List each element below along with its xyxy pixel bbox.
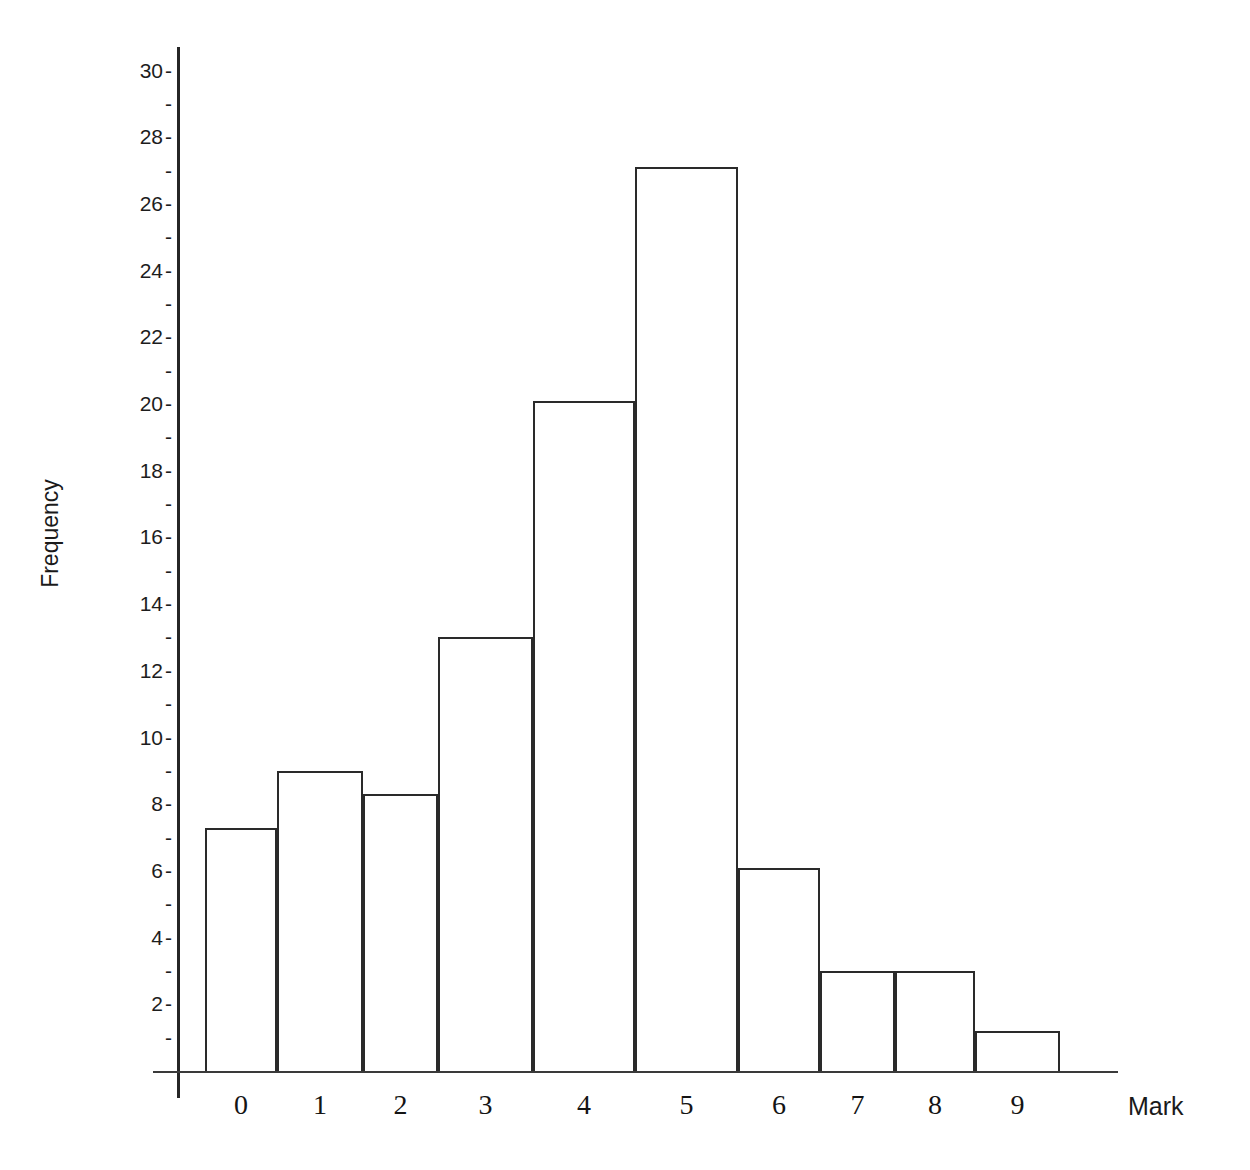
y-tick-mark: - xyxy=(165,60,172,81)
y-tick-label-21: - xyxy=(0,360,172,381)
y-tick-label-28: 28- xyxy=(0,126,172,147)
y-tick-label-22: 22- xyxy=(0,326,172,347)
y-tick-mark: - xyxy=(165,693,172,714)
y-tick-label-20: 20- xyxy=(0,393,172,414)
bar-0 xyxy=(205,828,277,1071)
y-tick-label-2: 2- xyxy=(0,993,172,1014)
bar-4 xyxy=(533,401,635,1071)
x-tick-label-6: 6 xyxy=(749,1089,809,1121)
y-tick-label-23: - xyxy=(0,293,172,314)
y-tick-value: 20 xyxy=(140,392,163,415)
y-tick-mark: - xyxy=(165,326,172,347)
y-tick-mark: - xyxy=(165,626,172,647)
y-tick-mark: - xyxy=(165,460,172,481)
y-tick-label-15: - xyxy=(0,560,172,581)
y-tick-value: 28 xyxy=(140,125,163,148)
x-tick-label-5: 5 xyxy=(657,1089,717,1121)
y-tick-label-1: - xyxy=(0,1027,172,1048)
y-tick-mark: - xyxy=(165,760,172,781)
y-tick-value: 16 xyxy=(140,525,163,548)
bar-2 xyxy=(363,794,438,1071)
y-tick-label-12: 12- xyxy=(0,660,172,681)
x-axis-line xyxy=(153,1071,1118,1073)
x-tick-label-4: 4 xyxy=(554,1089,614,1121)
x-tick-label-8: 8 xyxy=(905,1089,965,1121)
y-tick-label-6: 6- xyxy=(0,860,172,881)
y-tick-label-25: - xyxy=(0,226,172,247)
y-tick-mark: - xyxy=(165,526,172,547)
y-tick-mark: - xyxy=(165,893,172,914)
bar-1 xyxy=(277,771,363,1071)
y-tick-label-11: - xyxy=(0,693,172,714)
y-axis-line xyxy=(177,47,180,1098)
y-tick-mark: - xyxy=(165,993,172,1014)
y-tick-label-18: 18- xyxy=(0,460,172,481)
y-tick-mark: - xyxy=(165,560,172,581)
y-tick-value: 22 xyxy=(140,325,163,348)
y-tick-value: 8 xyxy=(151,792,163,815)
histogram-chart: Frequency 30--28--26--24--22--20--18--16… xyxy=(0,0,1250,1170)
y-tick-mark: - xyxy=(165,1027,172,1048)
y-tick-mark: - xyxy=(165,93,172,114)
y-tick-value: 6 xyxy=(151,859,163,882)
y-tick-mark: - xyxy=(165,593,172,614)
y-tick-mark: - xyxy=(165,193,172,214)
y-tick-mark: - xyxy=(165,260,172,281)
y-tick-value: 18 xyxy=(140,459,163,482)
y-tick-label-16: 16- xyxy=(0,526,172,547)
y-tick-value: 26 xyxy=(140,192,163,215)
y-tick-mark: - xyxy=(165,793,172,814)
y-tick-mark: - xyxy=(165,827,172,848)
y-tick-mark: - xyxy=(165,360,172,381)
bar-3 xyxy=(438,637,533,1071)
x-axis-title: Mark xyxy=(1128,1092,1184,1121)
y-tick-label-7: - xyxy=(0,827,172,848)
y-tick-label-8: 8- xyxy=(0,793,172,814)
bar-6 xyxy=(738,868,820,1071)
y-tick-value: 30 xyxy=(140,59,163,82)
y-tick-label-24: 24- xyxy=(0,260,172,281)
x-tick-label-9: 9 xyxy=(988,1089,1048,1121)
y-tick-label-3: - xyxy=(0,960,172,981)
y-tick-label-30: 30- xyxy=(0,60,172,81)
y-tick-label-14: 14- xyxy=(0,593,172,614)
y-tick-value: 10 xyxy=(140,726,163,749)
bar-8 xyxy=(895,971,975,1071)
y-tick-label-13: - xyxy=(0,626,172,647)
y-tick-label-5: - xyxy=(0,893,172,914)
y-tick-label-19: - xyxy=(0,426,172,447)
y-tick-mark: - xyxy=(165,293,172,314)
bar-7 xyxy=(820,971,895,1071)
y-tick-mark: - xyxy=(165,493,172,514)
y-tick-label-9: - xyxy=(0,760,172,781)
x-tick-label-2: 2 xyxy=(371,1089,431,1121)
x-tick-label-7: 7 xyxy=(828,1089,888,1121)
bar-5 xyxy=(635,167,738,1071)
y-tick-value: 24 xyxy=(140,259,163,282)
x-tick-label-3: 3 xyxy=(456,1089,516,1121)
y-tick-value: 12 xyxy=(140,659,163,682)
y-tick-value: 4 xyxy=(151,926,163,949)
bar-9 xyxy=(975,1031,1060,1071)
y-tick-mark: - xyxy=(165,727,172,748)
x-tick-label-1: 1 xyxy=(290,1089,350,1121)
y-axis-tick-labels: 30--28--26--24--22--20--18--16--14--12--… xyxy=(0,0,172,1170)
x-tick-label-0: 0 xyxy=(211,1089,271,1121)
y-tick-mark: - xyxy=(165,960,172,981)
y-tick-label-26: 26- xyxy=(0,193,172,214)
y-tick-value: 14 xyxy=(140,592,163,615)
y-tick-label-27: - xyxy=(0,160,172,181)
y-tick-mark: - xyxy=(165,226,172,247)
y-tick-mark: - xyxy=(165,393,172,414)
y-tick-label-10: 10- xyxy=(0,727,172,748)
y-tick-label-29: - xyxy=(0,93,172,114)
y-tick-mark: - xyxy=(165,126,172,147)
y-tick-mark: - xyxy=(165,927,172,948)
y-tick-mark: - xyxy=(165,426,172,447)
y-tick-label-4: 4- xyxy=(0,927,172,948)
y-tick-mark: - xyxy=(165,160,172,181)
y-tick-label-17: - xyxy=(0,493,172,514)
y-tick-value: 2 xyxy=(151,992,163,1015)
y-tick-mark: - xyxy=(165,660,172,681)
y-tick-mark: - xyxy=(165,860,172,881)
